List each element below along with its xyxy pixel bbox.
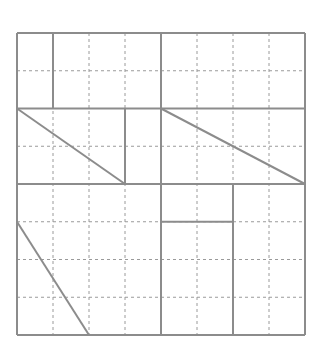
grid-diagram: [0, 0, 325, 352]
